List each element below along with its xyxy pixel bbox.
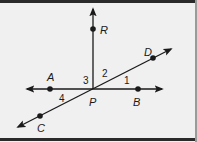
angle-label-4: 4 bbox=[59, 93, 65, 104]
point-A bbox=[47, 86, 53, 92]
angle-label-1: 1 bbox=[124, 75, 130, 86]
label-A: A bbox=[46, 71, 54, 83]
point-R bbox=[90, 26, 96, 32]
label-R: R bbox=[100, 24, 108, 36]
label-C: C bbox=[37, 122, 45, 134]
point-B bbox=[135, 86, 141, 92]
point-C bbox=[37, 113, 43, 119]
label-P: P bbox=[89, 96, 97, 108]
diagram-frame: R A B P C D 1 2 3 4 bbox=[0, 0, 197, 142]
label-D: D bbox=[144, 46, 152, 58]
angle-label-3: 3 bbox=[83, 75, 89, 86]
geometry-diagram: R A B P C D 1 2 3 4 bbox=[0, 0, 197, 142]
label-B: B bbox=[133, 96, 140, 108]
angle-label-2: 2 bbox=[102, 68, 108, 79]
